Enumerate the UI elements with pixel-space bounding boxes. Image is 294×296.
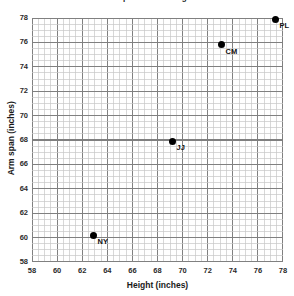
y-tick-label: 58 [6, 258, 28, 266]
data-point-marker [90, 232, 97, 239]
data-point-label: JJ [177, 144, 185, 152]
chart-title: Arm span versus height [0, 0, 294, 2]
data-point-label: CM [226, 48, 238, 56]
x-tick-label: 62 [70, 267, 94, 275]
x-tick-label: 72 [196, 267, 220, 275]
scatter-plot-figure: Arm span versus height NYJJCMPL 58606264… [0, 0, 294, 296]
y-tick-label: 74 [6, 63, 28, 71]
data-point-marker [169, 138, 176, 145]
x-tick-label: 66 [120, 267, 144, 275]
data-point-label: NY [97, 238, 107, 246]
plot-area: NYJJCMPL [32, 18, 283, 262]
x-axis-title: Height (inches) [32, 281, 283, 290]
x-tick-label: 60 [45, 267, 69, 275]
data-point-label: PL [279, 22, 289, 30]
x-tick-label: 68 [146, 267, 170, 275]
x-tick-label: 74 [221, 267, 245, 275]
grid-lines [32, 18, 283, 262]
x-tick-label: 76 [246, 267, 270, 275]
x-tick-label: 58 [20, 267, 44, 275]
x-tick-label: 70 [171, 267, 195, 275]
x-tick-label: 64 [95, 267, 119, 275]
x-tick-label: 78 [271, 267, 294, 275]
y-tick-label: 76 [6, 38, 28, 46]
y-axis-title: Arm span (inches) [7, 83, 16, 193]
data-point-marker [272, 16, 279, 23]
y-tick-label: 60 [6, 234, 28, 242]
y-tick-label: 62 [6, 209, 28, 217]
y-tick-label: 78 [6, 14, 28, 22]
